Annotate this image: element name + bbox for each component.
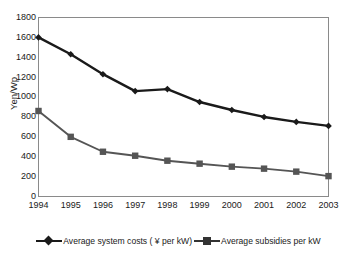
data-point-marker [68,134,74,140]
data-point-marker [261,165,267,171]
x-axis-tick: 2002 [286,201,306,210]
x-axis-tick: 2003 [318,201,338,210]
x-axis-tick: 1998 [157,201,177,210]
line-chart: Yen/Wp 1800 1600 1400 1200 1000 800 600 … [0,0,359,257]
legend-item-system-costs: Average system costs ( ¥ per kW) [36,236,194,246]
data-point-marker [100,149,106,155]
data-point-marker [35,108,41,114]
legend-item-subsidies: Average subsidies per kW [194,236,323,246]
x-axis-tick: 1997 [125,201,145,210]
legend-label-system-costs: Average system costs ( ¥ per kW) [63,236,194,246]
data-point-marker [325,173,331,179]
plot-area [0,0,359,257]
data-point-marker [132,153,138,159]
data-point-marker [196,160,202,166]
x-axis-tick: 1999 [190,201,210,210]
chart-legend: Average system costs ( ¥ per kW) Average… [0,231,359,251]
data-point-marker [293,168,299,174]
x-axis-tick: 1994 [28,201,48,210]
x-axis-tick: 2001 [254,201,274,210]
data-point-marker [164,158,170,164]
square-marker-icon [194,236,220,246]
legend-label-subsidies: Average subsidies per kW [221,236,323,246]
x-axis-tick: 1996 [93,201,113,210]
x-axis-tick: 1995 [61,201,81,210]
x-axis-tick: 2000 [222,201,242,210]
data-point-marker [229,163,235,169]
diamond-marker-icon [36,236,62,246]
